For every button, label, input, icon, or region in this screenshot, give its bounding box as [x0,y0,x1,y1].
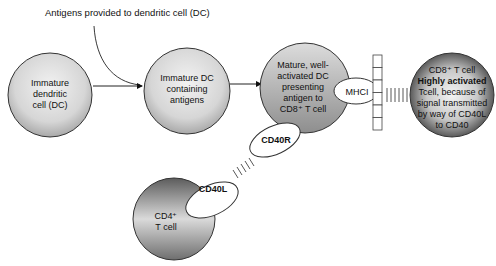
cell-label: by way of CD40L [418,109,487,119]
mhci-molecule: MHCI [334,78,378,104]
cell-label: Immature DC [160,73,214,83]
cell-label: to CD40 [435,120,468,130]
signal-stripes-mhci [387,88,407,102]
cell-label: antigens [170,95,205,105]
cd8-tcell: CD8⁺ T cell Highly activated Tcell, beca… [410,53,494,137]
cell-label-bold: Highly activated [417,76,486,86]
antigen-input-curve [94,26,140,85]
cell-label: presenting [282,82,324,92]
cell-label: containing [166,84,207,94]
cell-label: activated DC [277,71,329,81]
cell-label: signal transmitted [417,98,488,108]
cell-label: Mature, well- [277,60,329,70]
cd40l-label: CD40L [199,184,228,194]
cell-label: CD4⁺ [154,211,177,221]
cell-label: CD8⁺ T cell [280,104,327,114]
diagram-canvas: Antigens provided to dendritic cell (DC)… [0,0,496,266]
cell-label: T cell [155,222,176,232]
immature-dc-antigens-cell: Immature DC containing antigens [144,48,230,134]
tcr-receptor-bar [373,55,382,130]
cell-label: Tcell, because of [418,87,486,97]
cell-label: antigen to [283,93,323,103]
signal-stripes-cd40 [233,158,254,178]
immature-dc-cell: Immature dendritic cell (DC) [8,53,92,137]
cell-label: Immature [31,78,69,88]
antigens-label: Antigens provided to dendritic cell (DC) [45,7,210,18]
cd40r-label: CD40R [261,135,291,145]
mhci-label: MHCI [346,87,369,97]
cell-label: CD8⁺ T cell [429,65,476,75]
cell-label: cell (DC) [33,100,68,110]
cell-label: dendritic [33,89,68,99]
